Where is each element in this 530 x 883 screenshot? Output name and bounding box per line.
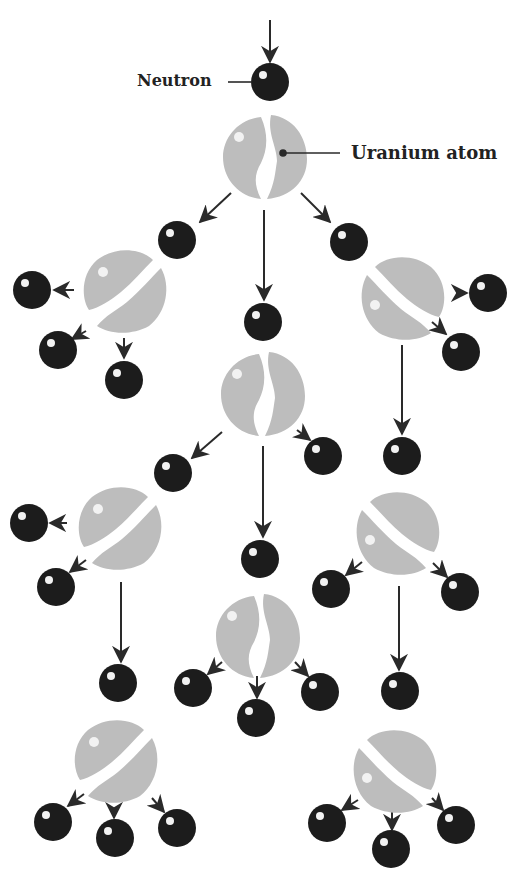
uranium-atom: [84, 250, 167, 333]
neutron: [237, 699, 275, 737]
neutron: [39, 331, 77, 369]
neutron: [105, 361, 143, 399]
uranium-atom: [75, 720, 158, 803]
neutron: [442, 333, 480, 371]
neutron: [301, 673, 339, 711]
uranium-atom: [216, 594, 300, 678]
neutron: [34, 803, 72, 841]
neutron: [372, 830, 410, 868]
neutron: [381, 672, 419, 710]
neutron: [37, 568, 75, 606]
neutron: [13, 271, 51, 309]
uranium-atom: [223, 115, 307, 199]
neutron: [154, 454, 192, 492]
neutron: [158, 809, 196, 847]
uranium-atom: [354, 730, 437, 813]
neutron: [441, 573, 479, 611]
neutron: [99, 664, 137, 702]
fission-chain-diagram: Neutron Uranium atom: [0, 0, 530, 883]
neutron: [251, 63, 289, 101]
uranium-atom-label: Uranium atom: [351, 142, 497, 163]
neutron: [330, 223, 368, 261]
neutron: [158, 221, 196, 259]
uranium-atom: [357, 492, 440, 575]
diagram-svg: [0, 0, 530, 883]
neutron: [304, 437, 342, 475]
neutron: [10, 504, 48, 542]
neutron: [241, 540, 279, 578]
uranium-atom: [362, 257, 445, 340]
neutron: [308, 804, 346, 842]
neutron: [469, 274, 507, 312]
neutron-label: Neutron: [137, 71, 212, 90]
neutron: [312, 570, 350, 608]
neutron: [174, 669, 212, 707]
neutron: [383, 437, 421, 475]
uranium-atom: [221, 352, 305, 436]
neutron: [244, 303, 282, 341]
uranium-atom: [79, 487, 162, 570]
neutron: [437, 806, 475, 844]
neutron: [96, 819, 134, 857]
